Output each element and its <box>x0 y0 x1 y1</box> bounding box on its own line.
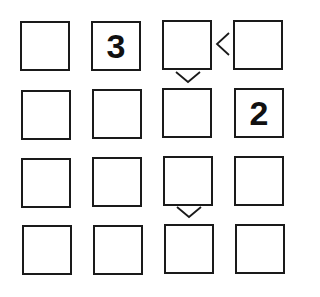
cell-r3c2[interactable] <box>92 157 142 207</box>
greater-than-down-sign-icon <box>175 70 201 84</box>
cell-value: 2 <box>250 96 269 130</box>
cell-r1c4[interactable] <box>233 20 283 70</box>
cell-value: 3 <box>107 29 126 63</box>
cell-r3c3[interactable] <box>163 156 213 206</box>
cell-r2c1[interactable] <box>21 90 71 140</box>
cell-r3c1[interactable] <box>21 158 71 208</box>
cell-r2c2[interactable] <box>92 89 142 139</box>
cell-r2c3[interactable] <box>162 88 212 138</box>
cell-r3c4[interactable] <box>234 156 284 206</box>
cell-r2c4[interactable]: 2 <box>234 88 284 138</box>
cell-r4c3[interactable] <box>164 224 214 274</box>
cell-r4c2[interactable] <box>93 225 143 275</box>
cell-r4c1[interactable] <box>22 225 72 275</box>
cell-r1c2[interactable]: 3 <box>91 21 141 71</box>
cell-r4c4[interactable] <box>235 224 285 274</box>
greater-than-down-sign-icon <box>176 205 202 219</box>
cell-r1c1[interactable] <box>20 21 70 71</box>
cell-r1c3[interactable] <box>162 20 212 70</box>
less-than-sign-icon <box>215 32 231 56</box>
